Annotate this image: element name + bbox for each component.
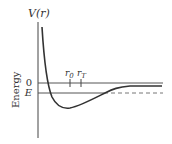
energy-label: E: [24, 87, 33, 98]
rT-label: rT: [77, 68, 87, 80]
r0-label: r0: [65, 68, 74, 80]
potential-curve: [42, 27, 162, 108]
y-axis-label: Energy: [10, 71, 21, 108]
potential-energy-diagram: V(r) 0 E r0 rT Energy: [0, 0, 172, 144]
title-label: V(r): [28, 7, 50, 20]
